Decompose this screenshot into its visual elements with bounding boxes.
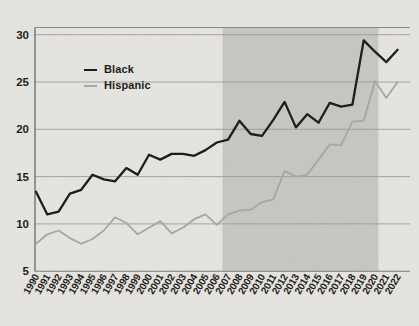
paper-grain-overlay xyxy=(0,0,419,326)
legend-label-black: Black xyxy=(104,64,134,75)
chart-page: 3025201510519901991199219931994199519961… xyxy=(0,0,419,326)
line-chart-canvas: 3025201510519901991199219931994199519961… xyxy=(0,0,419,326)
legend-item-black: Black xyxy=(84,64,151,75)
black-series-swatch xyxy=(84,69,97,71)
hispanic-series-swatch xyxy=(84,85,97,87)
legend-label-hispanic: Hispanic xyxy=(104,80,151,91)
legend-item-hispanic: Hispanic xyxy=(84,80,151,91)
chart-legend: Black Hispanic xyxy=(84,64,151,91)
